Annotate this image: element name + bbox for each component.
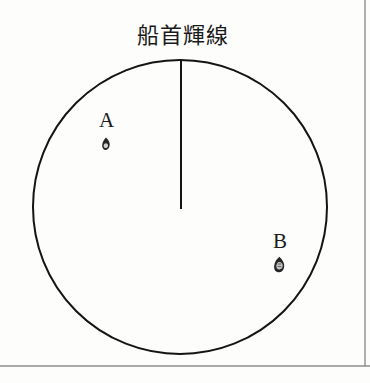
target-b-label: B: [273, 231, 287, 252]
target-a-label: A: [99, 110, 114, 131]
radar-scope-figure: 船首輝線 A B: [0, 0, 370, 383]
diagram-title: 船首輝線: [0, 25, 366, 47]
target-a-blip: [102, 138, 110, 151]
radar-scope-canvas: [0, 0, 370, 383]
target-b-blip: [274, 257, 284, 272]
